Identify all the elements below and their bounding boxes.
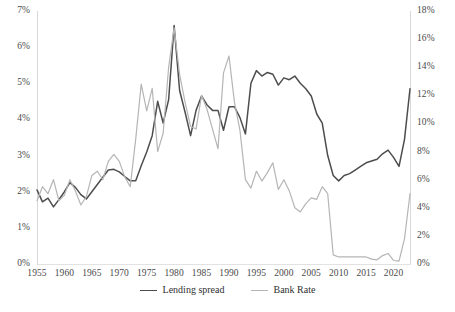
legend-item-bank-rate[interactable]: Bank Rate [251, 285, 316, 295]
plot-area [0, 0, 455, 312]
legend-swatch-icon [140, 290, 157, 291]
chart-container: 0%1%2%3%4%5%6%7% 0%2%4%6%8%10%12%14%16%1… [0, 0, 455, 312]
chart-legend: Lending spreadBank Rate [0, 285, 455, 295]
legend-label: Lending spread [163, 285, 225, 295]
legend-label: Bank Rate [274, 285, 316, 295]
legend-swatch-icon [251, 290, 268, 291]
series-line-lending-spread [37, 25, 410, 206]
series-line-bank-rate [37, 28, 410, 261]
legend-item-lending-spread[interactable]: Lending spread [140, 285, 225, 295]
